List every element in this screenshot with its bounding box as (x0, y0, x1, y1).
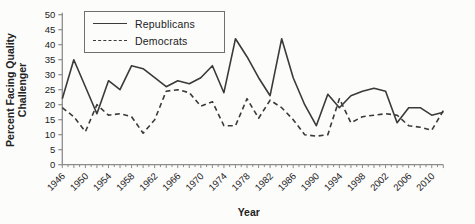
y-tick-label: 25 (45, 84, 56, 95)
x-axis-ticks: 1946195019541958196219661970197419781982… (45, 165, 444, 193)
y-tick-label: 10 (45, 129, 56, 140)
y-tick-label: 5 (50, 144, 55, 155)
democrats-line-swatch (93, 40, 127, 41)
y-tick-label: 45 (45, 24, 56, 35)
x-tick-label: 1970 (183, 170, 206, 193)
y-tick-label: 15 (45, 114, 56, 125)
legend-item-republicans: Republicans (93, 18, 216, 30)
x-tick-label: 1954 (91, 170, 114, 193)
x-tick-label: 2006 (391, 170, 414, 193)
x-tick-label: 1946 (45, 170, 68, 193)
x-tick-label: 1982 (252, 170, 275, 193)
y-tick-label: 40 (45, 39, 56, 50)
x-tick-label: 1994 (322, 170, 345, 193)
x-tick-label: 1962 (137, 170, 160, 193)
legend-label-democrats: Democrats (135, 35, 188, 47)
x-tick-label: 2010 (414, 170, 437, 193)
x-tick-label: 1998 (345, 170, 368, 193)
x-tick-label: 1986 (275, 170, 298, 193)
quality-challenger-chart: 0510152025303540455019461950195419581962… (0, 0, 475, 224)
plot-area: 0510152025303540455019461950195419581962… (0, 0, 475, 224)
x-tick-label: 2002 (368, 170, 391, 193)
legend-item-democrats: Democrats (93, 35, 216, 47)
y-axis-title-line2: Challenger (16, 63, 28, 117)
y-tick-label: 30 (45, 69, 56, 80)
y-axis-ticks: 05101520253035404550 (45, 9, 63, 170)
x-tick-label: 1978 (229, 170, 252, 193)
x-tick-label: 1990 (299, 170, 322, 193)
x-tick-label: 1958 (114, 170, 137, 193)
y-tick-label: 0 (50, 159, 55, 170)
x-tick-label: 1966 (160, 170, 183, 193)
democrats-line (62, 90, 443, 137)
y-tick-label: 35 (45, 54, 56, 65)
x-axis-title: Year (238, 206, 260, 218)
y-tick-label: 50 (45, 9, 56, 20)
x-tick-label: 1974 (206, 170, 229, 193)
legend-label-republicans: Republicans (135, 18, 195, 30)
x-tick-label: 1950 (68, 170, 91, 193)
republicans-line-swatch (93, 23, 127, 24)
legend: Republicans Democrats (84, 11, 225, 53)
y-axis-title-line1: Percent Facing Quality (4, 33, 16, 147)
y-tick-label: 20 (45, 99, 56, 110)
